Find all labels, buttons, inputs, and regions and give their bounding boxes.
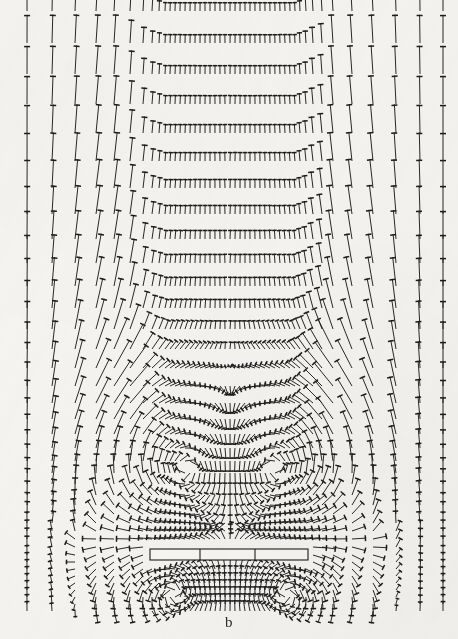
figure-panel: b <box>0 0 458 639</box>
vector-field-plot <box>0 0 458 639</box>
panel-label: b <box>0 614 458 631</box>
